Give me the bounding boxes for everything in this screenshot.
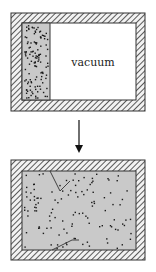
molecule-dot xyxy=(75,238,76,239)
gas-region-expanded xyxy=(22,171,136,250)
molecule-dot xyxy=(27,57,28,58)
molecule-dot xyxy=(46,88,47,89)
molecule-dot xyxy=(66,180,67,181)
molecule-dot xyxy=(87,189,88,190)
molecule-dot xyxy=(117,248,118,249)
molecule-dot xyxy=(92,178,93,179)
molecule-dot xyxy=(36,57,37,58)
molecule-dot xyxy=(43,35,44,36)
molecule-dot xyxy=(26,97,27,98)
molecule-dot xyxy=(26,30,27,31)
molecule-dot xyxy=(62,246,63,247)
molecule-dot xyxy=(26,232,27,233)
molecule-dot xyxy=(28,25,29,26)
molecule-dot xyxy=(35,65,36,66)
molecule-dot xyxy=(112,204,113,205)
molecule-dot xyxy=(122,244,123,245)
molecule-dot xyxy=(28,28,29,29)
molecule-dot xyxy=(35,204,36,205)
molecule-dot xyxy=(31,81,32,82)
molecule-dot xyxy=(46,228,47,229)
molecule-dot xyxy=(27,91,28,92)
molecule-dot xyxy=(36,55,37,56)
molecule-dot xyxy=(35,31,36,32)
molecule-dot xyxy=(93,192,94,193)
molecule-dot xyxy=(54,199,55,200)
molecule-dot xyxy=(43,92,44,93)
vacuum-label: vacuum xyxy=(70,56,115,69)
molecule-dot xyxy=(75,212,76,213)
molecule-dot xyxy=(66,232,67,233)
molecule-dot xyxy=(40,89,41,90)
molecule-dot xyxy=(46,44,47,45)
molecule-dot xyxy=(107,178,108,179)
molecule-dot xyxy=(38,59,39,60)
molecule-dot xyxy=(81,191,82,192)
molecule-dot xyxy=(57,244,58,245)
molecule-dot xyxy=(28,81,29,82)
molecule-dot xyxy=(47,63,48,64)
molecule-dot xyxy=(34,196,35,197)
molecule-dot xyxy=(26,93,27,94)
molecule-dot xyxy=(35,96,36,97)
molecule-dot xyxy=(30,51,31,52)
molecule-dot xyxy=(26,37,27,38)
molecule-dot xyxy=(124,225,125,226)
molecule-dot xyxy=(30,86,31,87)
molecule-dot xyxy=(34,41,35,42)
molecule-dot xyxy=(46,67,47,68)
arrow-head-icon xyxy=(75,145,83,153)
molecule-dot xyxy=(38,202,39,203)
molecule-dot xyxy=(85,216,86,217)
molecule-dot xyxy=(58,234,59,235)
molecule-dot xyxy=(72,223,73,224)
molecule-dot xyxy=(30,95,31,96)
molecule-dot xyxy=(62,220,63,221)
molecule-dot xyxy=(29,47,30,48)
molecule-dot xyxy=(51,191,52,192)
molecule-dot xyxy=(32,56,33,57)
molecule-dot xyxy=(47,66,48,67)
molecule-dot xyxy=(46,75,47,76)
molecule-dot xyxy=(27,43,28,44)
molecule-dot xyxy=(89,245,90,246)
molecule-dot xyxy=(35,86,36,87)
molecule-dot xyxy=(75,185,76,186)
molecule-dot xyxy=(39,226,40,227)
molecule-dot xyxy=(25,53,26,54)
molecule-dot xyxy=(47,49,48,50)
molecule-dot xyxy=(106,238,107,239)
molecule-dot xyxy=(93,201,94,202)
molecule-dot xyxy=(51,212,52,213)
molecule-dot xyxy=(35,97,36,98)
molecule-dot xyxy=(87,217,88,218)
molecule-dot xyxy=(52,209,53,210)
molecule-dot xyxy=(37,61,38,62)
molecule-dot xyxy=(30,90,31,91)
molecule-dot xyxy=(27,215,28,216)
molecule-dot xyxy=(37,97,38,98)
molecule-dot xyxy=(68,194,69,195)
molecule-dot xyxy=(24,207,25,208)
molecule-dot xyxy=(29,54,30,55)
molecule-dot xyxy=(27,210,28,211)
molecule-dot xyxy=(49,220,50,221)
molecule-dot xyxy=(34,207,35,208)
molecule-dot xyxy=(61,198,62,199)
container-before: vacuum xyxy=(11,13,145,111)
molecule-dot xyxy=(24,246,25,247)
molecule-dot xyxy=(25,69,26,70)
molecule-dot xyxy=(117,229,118,230)
molecule-dot xyxy=(59,185,60,186)
molecule-dot xyxy=(90,184,91,185)
molecule-dot xyxy=(40,61,41,62)
molecule-dot xyxy=(57,202,58,203)
molecule-dot xyxy=(66,244,67,245)
molecule-dot xyxy=(35,53,36,54)
molecule-dot xyxy=(130,233,131,234)
molecule-dot xyxy=(26,187,27,188)
molecule-dot xyxy=(41,72,42,73)
molecule-dot xyxy=(108,179,109,180)
molecule-dot xyxy=(27,41,28,42)
molecule-dot xyxy=(24,210,25,211)
